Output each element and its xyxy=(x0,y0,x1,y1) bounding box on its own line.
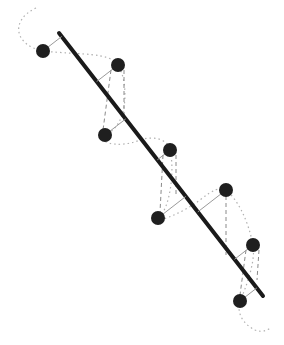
data-points xyxy=(36,44,260,308)
regression-diagram xyxy=(0,0,284,345)
data-point xyxy=(98,128,112,142)
data-point xyxy=(151,211,165,225)
data-point xyxy=(246,238,260,252)
data-point xyxy=(233,294,247,308)
data-point xyxy=(219,183,233,197)
data-point xyxy=(163,143,177,157)
data-point xyxy=(111,58,125,72)
dotted-curve xyxy=(19,8,270,331)
data-point xyxy=(36,44,50,58)
residual-lines xyxy=(43,36,257,301)
regression-line xyxy=(59,33,263,296)
